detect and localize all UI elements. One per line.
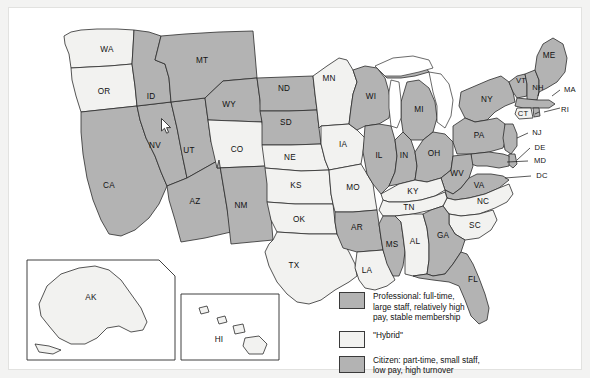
- state-label-MT: MT: [196, 56, 208, 65]
- state-label-KY: KY: [407, 187, 419, 196]
- state-label-AL: AL: [410, 237, 421, 246]
- legend-label-professional: Professional: full-time, large staff, re…: [373, 291, 465, 323]
- map-legend: Professional: full-time, large staff, re…: [339, 291, 519, 378]
- state-label-ND: ND: [278, 84, 290, 93]
- legend-line: large staff, relatively high: [373, 302, 465, 313]
- legend-line: pay, stable membership: [373, 312, 465, 323]
- state-label-ME: ME: [543, 51, 556, 60]
- legend-line: "Hybrid": [373, 330, 403, 341]
- state-label-SC: SC: [469, 221, 481, 230]
- legend-swatch-professional: [339, 292, 365, 309]
- state-RI[interactable]: [533, 108, 540, 117]
- state-label-NY: NY: [481, 95, 493, 104]
- state-label-WY: WY: [222, 100, 236, 109]
- state-HI-maui: [233, 324, 245, 334]
- state-label-NM: NM: [234, 201, 247, 210]
- state-label-IN: IN: [400, 151, 409, 160]
- state-ND[interactable]: [257, 76, 317, 111]
- state-label-MO: MO: [346, 183, 360, 192]
- state-label-MD: MD: [534, 156, 547, 165]
- state-label-NJ: NJ: [532, 128, 542, 137]
- state-MA[interactable]: [515, 98, 555, 108]
- state-label-VT: VT: [516, 76, 526, 85]
- state-label-DE: DE: [535, 143, 546, 152]
- state-label-IL: IL: [375, 151, 382, 160]
- legend-line: Citizen: part-time, small staff,: [373, 355, 480, 366]
- leader-line-NJ: [517, 133, 528, 138]
- state-label-OH: OH: [428, 149, 441, 158]
- state-label-CT: CT: [518, 109, 529, 118]
- state-label-NV: NV: [149, 141, 161, 150]
- state-label-WA: WA: [100, 45, 114, 54]
- leader-line-RI: [544, 108, 560, 112]
- state-label-AK: AK: [85, 293, 97, 302]
- state-label-AR: AR: [351, 223, 363, 232]
- state-label-KS: KS: [290, 181, 302, 190]
- state-label-ID: ID: [147, 92, 156, 101]
- state-label-TX: TX: [289, 261, 300, 270]
- figure-container: WA OR CA NV ID UT AZ MT WY CO NM ND SD N…: [0, 0, 590, 378]
- legend-row-professional: Professional: full-time, large staff, re…: [339, 291, 519, 323]
- legend-line: low pay, high turnover: [373, 365, 480, 376]
- legend-label-citizen: Citizen: part-time, small staff, low pay…: [373, 355, 480, 376]
- state-label-MA: MA: [564, 85, 577, 94]
- lake-michigan: [389, 80, 401, 128]
- state-label-WV: WV: [450, 169, 464, 178]
- leader-line-DC: [505, 176, 531, 178]
- state-label-NC: NC: [477, 197, 489, 206]
- state-label-VA: VA: [474, 181, 485, 190]
- state-label-CA: CA: [103, 181, 115, 190]
- state-label-DC: DC: [536, 171, 548, 180]
- state-label-NH: NH: [532, 83, 543, 92]
- legend-swatch-citizen: [339, 356, 365, 373]
- state-label-MS: MS: [386, 240, 399, 249]
- state-label-IA: IA: [339, 140, 347, 149]
- state-label-CO: CO: [231, 145, 244, 154]
- state-label-LA: LA: [362, 266, 373, 275]
- state-MD[interactable]: [471, 152, 509, 168]
- state-SD[interactable]: [260, 110, 321, 145]
- state-label-MI: MI: [414, 105, 424, 114]
- map-stage: WA OR CA NV ID UT AZ MT WY CO NM ND SD N…: [9, 8, 583, 371]
- state-label-HI: HI: [215, 335, 224, 344]
- state-CO[interactable]: [208, 120, 267, 168]
- state-label-SD: SD: [280, 118, 292, 127]
- state-label-TN: TN: [403, 203, 414, 212]
- legend-label-hybrid: "Hybrid": [373, 330, 403, 341]
- leader-line-DE: [517, 148, 530, 160]
- state-label-AZ: AZ: [190, 197, 201, 206]
- map-panel: WA OR CA NV ID UT AZ MT WY CO NM ND SD N…: [8, 7, 582, 370]
- state-label-WI: WI: [366, 92, 376, 101]
- state-label-NE: NE: [284, 153, 296, 162]
- state-label-GA: GA: [437, 231, 450, 240]
- state-WA[interactable]: [64, 29, 134, 68]
- state-label-PA: PA: [474, 131, 485, 140]
- legend-row-citizen: Citizen: part-time, small staff, low pay…: [339, 355, 519, 376]
- state-NJ[interactable]: [503, 124, 517, 154]
- legend-row-hybrid: "Hybrid": [339, 330, 519, 348]
- state-label-OK: OK: [293, 215, 306, 224]
- state-label-OR: OR: [98, 87, 111, 96]
- legend-line: Professional: full-time,: [373, 291, 465, 302]
- leader-line-MA: [552, 90, 560, 96]
- state-label-RI: RI: [561, 105, 569, 114]
- legend-swatch-hybrid: [339, 331, 365, 348]
- state-label-UT: UT: [183, 146, 194, 155]
- state-label-MN: MN: [322, 74, 335, 83]
- state-label-FL: FL: [468, 275, 478, 284]
